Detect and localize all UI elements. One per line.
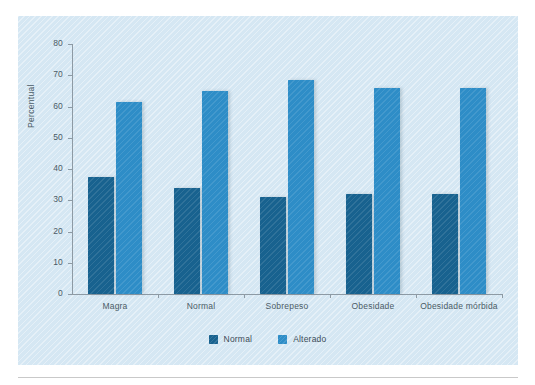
y-axis-tick-label: 60: [53, 101, 63, 111]
bar: [374, 88, 400, 294]
legend-swatch-icon: [278, 335, 287, 344]
bar: [288, 80, 314, 294]
y-axis-tick-label: 50: [53, 132, 63, 142]
x-axis-tick-mark: [158, 294, 159, 298]
bar: [174, 188, 200, 294]
bar: [432, 194, 458, 294]
legend-entry: Alterado: [278, 334, 326, 344]
legend-entry: Normal: [209, 334, 253, 344]
bar-group: [174, 44, 228, 294]
bar: [346, 194, 372, 294]
x-axis-tick-label: Sobrepeso: [244, 301, 330, 311]
x-axis-tick-mark: [416, 294, 417, 298]
bar-group: [88, 44, 142, 294]
x-axis-tick-label: Normal: [158, 301, 244, 311]
chart-figure: Percentual 01020304050607080 MagraNormal…: [0, 0, 535, 385]
bar: [116, 102, 142, 294]
bar-group: [432, 44, 486, 294]
x-axis-line: [72, 294, 502, 295]
bar: [202, 91, 228, 294]
y-axis-tick-label: 40: [53, 163, 63, 173]
figure-bottom-rule: [18, 377, 518, 378]
x-axis-tick-mark: [330, 294, 331, 298]
legend-label: Normal: [224, 334, 253, 344]
x-axis-tick-label: Obesidade: [330, 301, 416, 311]
bar-group: [346, 44, 400, 294]
legend-label: Alterado: [293, 334, 326, 344]
x-axis-tick-mark: [502, 294, 503, 298]
chart-legend: NormalAlterado: [0, 334, 535, 344]
x-axis-tick-mark: [244, 294, 245, 298]
bar: [460, 88, 486, 294]
y-axis-tick-mark: [68, 294, 72, 295]
y-axis-tick-label: 10: [53, 257, 63, 267]
bar: [88, 177, 114, 294]
bar: [260, 197, 286, 294]
y-axis-tick-label: 30: [53, 194, 63, 204]
plot-area: [72, 44, 502, 294]
y-axis-tick-label: 0: [58, 288, 63, 298]
y-axis-tick-label: 20: [53, 226, 63, 236]
y-axis-title: Percentual: [26, 84, 36, 128]
x-axis-tick-label: Obesidade mórbida: [416, 301, 502, 311]
x-axis-tick-label: Magra: [72, 301, 158, 311]
legend-swatch-icon: [209, 335, 218, 344]
y-axis-tick-label: 70: [53, 69, 63, 79]
bar-group: [260, 44, 314, 294]
y-axis-tick-label: 80: [53, 38, 63, 48]
